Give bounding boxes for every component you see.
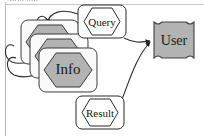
node-result[interactable]: Result bbox=[76, 96, 124, 129]
diagram-canvas: Structure bbox=[0, 0, 204, 136]
node-query[interactable]: Query bbox=[78, 5, 126, 38]
node-user-label: User bbox=[161, 33, 188, 48]
diagram-svg: Info Query Result User bbox=[0, 0, 204, 136]
node-result-label: Result bbox=[86, 107, 114, 119]
node-query-label: Query bbox=[88, 16, 116, 28]
node-user[interactable]: User bbox=[154, 22, 194, 58]
node-info-label: Info bbox=[56, 61, 81, 77]
edge-query-to-user bbox=[124, 38, 150, 42]
edge-result-to-user bbox=[120, 42, 150, 104]
